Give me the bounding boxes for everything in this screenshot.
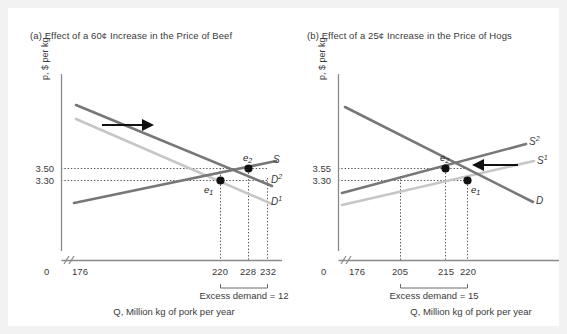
panel-b-ytick-355: 3.55 (297, 163, 331, 174)
figure-card: (a) Effect of a 60¢ Increase in the Pric… (8, 8, 559, 326)
panel-b-x-axis-title-text: Q, Million kg of pork per year (410, 306, 531, 317)
panel-a-excess-bracket (221, 284, 268, 288)
panel-b-eqlabel-e2-sub: 2 (445, 157, 449, 164)
panel-a-plot-area (14, 8, 289, 326)
panel-b: (b) Effect of a 25¢ Increase in the Pric… (291, 8, 566, 326)
panel-b-eqlabel-e2: e2 (440, 152, 449, 163)
panel-a-label-d1: D1 (271, 195, 282, 207)
panel-b-curve-d (345, 107, 533, 202)
panel-a-point-e1 (216, 176, 224, 184)
panel-b-label-d-text: D (536, 195, 543, 206)
panel-a-xtick-232: 232 (260, 266, 276, 277)
panel-a-ytick-330: 3.30 (20, 175, 54, 186)
panel-a-excess-demand-label: Excess demand = 12 (200, 290, 289, 301)
panel-a-shift-arrow (102, 119, 154, 131)
panel-b-excess-bracket (401, 284, 468, 288)
panel-a-label-d2-sup: 2 (278, 173, 282, 180)
panel-a-label-s-text: S (273, 154, 280, 165)
panel-a-eqlabel-e1: e1 (204, 184, 213, 195)
panel-a-eqlabel-e1-sub: 1 (209, 189, 213, 196)
panel-b-eqlabel-e1-sub: 1 (476, 189, 480, 196)
panel-b-eqlabel-e1: e1 (471, 184, 480, 195)
panel-a-label-s: S (273, 154, 280, 165)
panel-b-excess-demand-label: Excess demand = 15 (390, 290, 479, 301)
panel-b-plot-area (291, 8, 566, 326)
panel-b-x-axis-title: Q, Million kg of pork per year (410, 306, 531, 317)
panel-b-xtick-176: 176 (349, 266, 365, 277)
panel-a: (a) Effect of a 60¢ Increase in the Pric… (14, 8, 289, 326)
panel-b-label-s2-sup: 2 (536, 135, 540, 142)
panel-b-label-s2: S2 (529, 135, 540, 147)
panel-a-zero-tick: 0 (44, 266, 49, 277)
panel-b-xtick-205: 205 (392, 266, 408, 277)
panel-a-x-axis-title: Q, Million kg of pork per year (113, 306, 234, 317)
panel-b-label-s1-sup: 1 (544, 154, 548, 161)
panel-b-ytick-330: 3.30 (297, 175, 331, 186)
panel-a-curve-d2 (76, 105, 272, 186)
panel-b-zero-tick: 0 (321, 266, 326, 277)
panel-b-svg (291, 8, 566, 326)
figure-root: (a) Effect of a 60¢ Increase in the Pric… (0, 0, 567, 334)
panel-a-eqlabel-e2-sub: 2 (248, 157, 252, 164)
panel-a-label-d2: D2 (271, 173, 282, 185)
panel-b-xtick-220: 220 (460, 266, 476, 277)
panel-a-ytick-350: 3.50 (20, 163, 54, 174)
panel-a-xtick-220: 220 (212, 266, 228, 277)
panel-a-x-axis-title-text: Q, Million kg of pork per year (113, 306, 234, 317)
panel-a-eqlabel-e2: e2 (243, 152, 252, 163)
panel-b-label-s1: S1 (537, 154, 548, 166)
panel-a-xtick-228: 228 (240, 266, 256, 277)
panel-a-svg (14, 8, 289, 326)
panel-b-label-d: D (536, 195, 543, 206)
panel-b-xtick-215: 215 (438, 266, 454, 277)
panel-a-point-e2 (244, 164, 252, 172)
panel-a-label-d1-sup: 1 (278, 195, 282, 202)
panel-a-xtick-176: 176 (72, 266, 88, 277)
panel-b-point-e2 (441, 164, 449, 172)
